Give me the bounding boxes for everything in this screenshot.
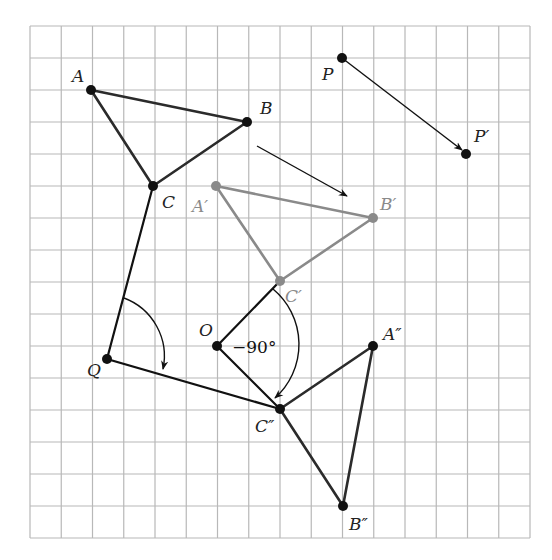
point-b1 xyxy=(368,213,378,223)
label-c2: C″ xyxy=(255,416,275,436)
point-a xyxy=(86,85,96,95)
triangle-abc xyxy=(91,90,247,186)
label-p: P xyxy=(321,64,334,84)
point-p1 xyxy=(461,149,471,159)
angle-label: −90° xyxy=(232,337,276,357)
label-q: Q xyxy=(87,360,101,380)
point-b xyxy=(242,117,252,127)
label-b: B xyxy=(259,98,273,118)
label-p1: P′ xyxy=(473,126,489,146)
point-o xyxy=(212,341,222,351)
label-c: C xyxy=(162,192,175,212)
label-a: A xyxy=(70,66,84,86)
label-b2: B″ xyxy=(348,514,368,534)
point-c1 xyxy=(275,276,285,286)
point-c xyxy=(148,181,158,191)
translation-arrow-pp xyxy=(342,58,462,150)
label-a2: A″ xyxy=(381,324,402,344)
label-o: O xyxy=(199,320,213,340)
point-p xyxy=(337,53,347,63)
label-b1: B′ xyxy=(379,194,396,214)
transformation-diagram: ABCA′B′C′OA″B″C″PP′Q −90° xyxy=(0,0,552,560)
point-c2 xyxy=(275,404,285,414)
label-a1: A′ xyxy=(190,196,208,216)
label-c1: C′ xyxy=(285,286,302,306)
point-a1 xyxy=(211,181,221,191)
point-b2 xyxy=(338,501,348,511)
rotation-q-arc xyxy=(124,298,164,369)
triangle-a1b1c1 xyxy=(216,186,373,281)
point-q xyxy=(102,354,112,364)
point-a2 xyxy=(368,341,378,351)
rotation-q-rays xyxy=(107,186,280,409)
